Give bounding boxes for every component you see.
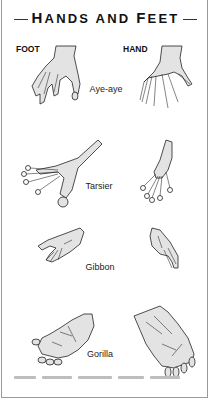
tarsier-foot-illustration [20, 138, 105, 203]
species-label-tarsier: Tarsier [69, 181, 129, 191]
title-initial-f: F [136, 9, 147, 26]
gibbon-hand-illustration [146, 226, 186, 274]
title-text-1: ANDS AND [45, 11, 137, 26]
title-initial-h: H [32, 9, 45, 26]
aye-aye-foot-illustration [28, 44, 88, 109]
tarsier-hand-illustration [138, 138, 183, 203]
title-rule-right [183, 19, 197, 20]
species-label-aye-aye: Aye-aye [76, 84, 136, 94]
species-label-gibbon: Gibbon [70, 262, 130, 272]
title-rule-left [14, 19, 28, 20]
species-label-gorilla: Gorilla [70, 349, 130, 359]
title-text-2: EET [148, 11, 180, 26]
gorilla-hand-illustration [132, 304, 196, 378]
figure-title: HANDS AND FEET [0, 9, 211, 26]
aye-aye-hand-illustration [138, 44, 198, 114]
cropped-caption-text [14, 376, 199, 380]
gibbon-foot-illustration [36, 226, 88, 264]
